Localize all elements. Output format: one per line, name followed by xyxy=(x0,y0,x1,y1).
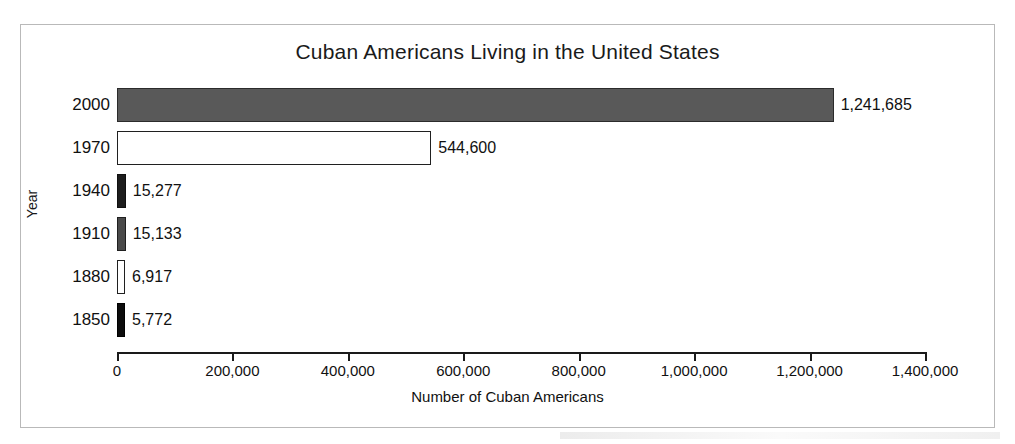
bar-1970 xyxy=(117,131,431,165)
x-axis-title: Number of Cuban Americans xyxy=(0,388,1015,405)
plot-area: Year 20001,241,6851970544,600194015,2771… xyxy=(0,0,1015,444)
chart-screenshot: Cuban Americans Living in the United Sta… xyxy=(0,0,1015,444)
x-tick-200000 xyxy=(232,352,234,361)
x-tick-800000 xyxy=(579,352,581,361)
category-label-1940: 1940 xyxy=(40,181,110,201)
bar-row: 18505,772 xyxy=(0,303,1015,337)
bar-1880 xyxy=(117,260,125,294)
x-tick-0 xyxy=(117,352,119,361)
x-tick-600000 xyxy=(463,352,465,361)
bar-value-1850: 5,772 xyxy=(132,310,172,330)
bar-value-1880: 6,917 xyxy=(132,267,172,287)
bar-row: 1970544,600 xyxy=(0,131,1015,165)
bar-row: 20001,241,685 xyxy=(0,88,1015,122)
bar-1940 xyxy=(117,174,126,208)
x-axis-line xyxy=(117,352,925,354)
bar-1910 xyxy=(117,217,126,251)
bar-2000 xyxy=(117,88,834,122)
bar-value-1940: 15,277 xyxy=(133,181,182,201)
x-tick-label-1400000: 1,400,000 xyxy=(855,362,995,379)
bar-row: 18806,917 xyxy=(0,260,1015,294)
x-tick-1000000 xyxy=(694,352,696,361)
bar-value-1970: 544,600 xyxy=(438,138,496,158)
bar-value-1910: 15,133 xyxy=(133,224,182,244)
bar-row: 191015,133 xyxy=(0,217,1015,251)
category-label-2000: 2000 xyxy=(40,95,110,115)
scan-artifact xyxy=(560,432,1000,439)
category-label-1880: 1880 xyxy=(40,267,110,287)
category-label-1910: 1910 xyxy=(40,224,110,244)
x-tick-1200000 xyxy=(810,352,812,361)
bar-row: 194015,277 xyxy=(0,174,1015,208)
x-tick-1400000 xyxy=(925,352,927,361)
bar-value-2000: 1,241,685 xyxy=(841,95,912,115)
x-tick-400000 xyxy=(348,352,350,361)
bar-1850 xyxy=(117,303,125,337)
category-label-1970: 1970 xyxy=(40,138,110,158)
category-label-1850: 1850 xyxy=(40,310,110,330)
